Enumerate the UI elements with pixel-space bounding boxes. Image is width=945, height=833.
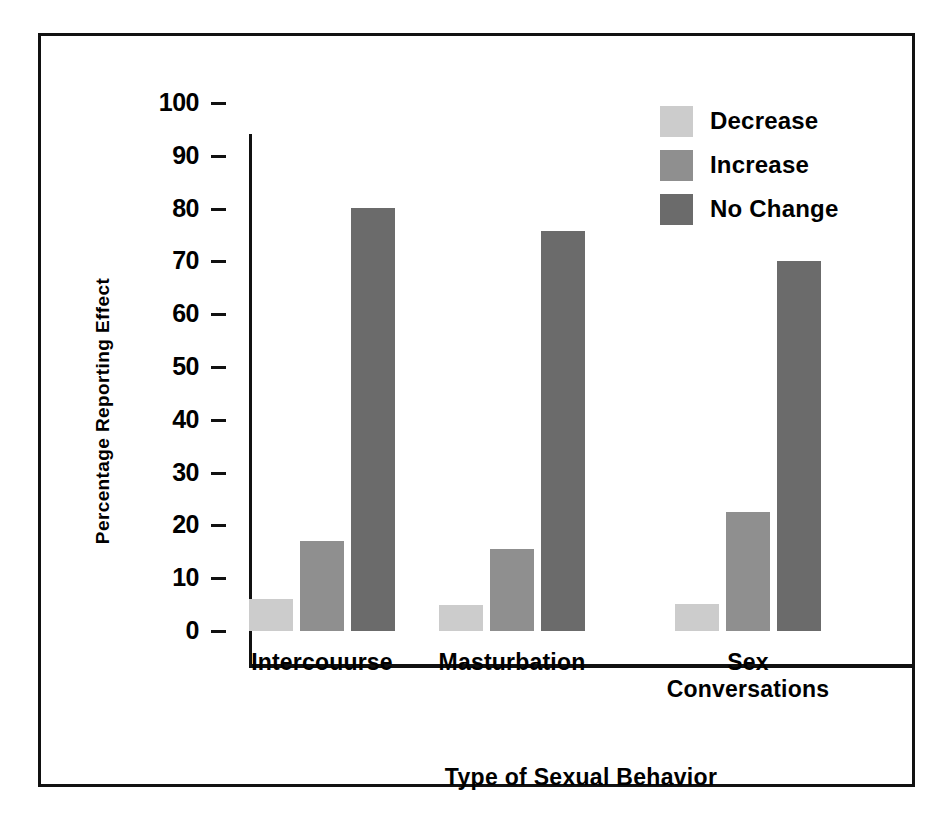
x-axis-title: Type of Sexual Behavior (249, 764, 913, 791)
legend: DecreaseIncreaseNo Change (660, 99, 838, 231)
bar-increase-0 (300, 541, 344, 631)
bar-decrease-1 (439, 605, 483, 631)
x-axis-category-label: Sex Conversations (608, 649, 888, 703)
legend-item: No Change (660, 187, 838, 231)
bar-increase-1 (490, 549, 534, 631)
legend-swatch-icon (660, 150, 693, 181)
legend-label: Increase (710, 151, 809, 179)
figure-frame: 1009080706050403020100 Percentage Report… (38, 33, 915, 787)
legend-label: No Change (710, 195, 838, 223)
bar-decrease-2 (675, 604, 719, 631)
bar-nochange-1 (541, 231, 585, 631)
legend-swatch-icon (660, 194, 693, 225)
bar-increase-2 (726, 512, 770, 631)
legend-label: Decrease (710, 107, 818, 135)
legend-swatch-icon (660, 106, 693, 137)
legend-item: Decrease (660, 99, 838, 143)
bar-decrease-0 (249, 599, 293, 631)
bar-nochange-0 (351, 208, 395, 631)
bar-nochange-2 (777, 261, 821, 631)
legend-item: Increase (660, 143, 838, 187)
